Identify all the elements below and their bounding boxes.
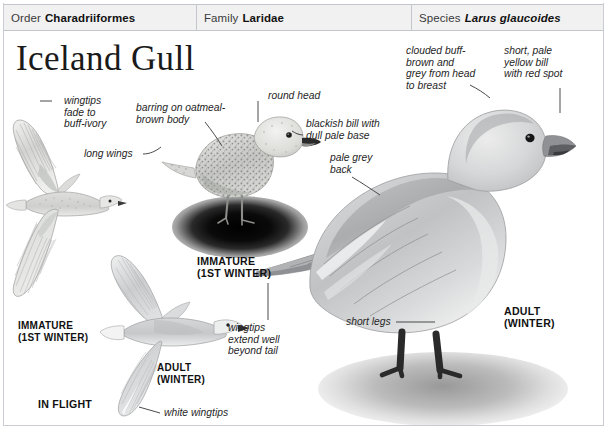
order-value: Charadriiformes [45, 12, 135, 24]
annotation-short-bill: short, pale yellow bill with red spot [504, 45, 594, 80]
annotation-wingtips-fade: wingtips fade to buff-ivory [64, 95, 144, 130]
annotation-blackish-bill: blackish bill with dull pale base [306, 118, 416, 141]
field-guide-plate: Order Charadriiformes Family Laridae Spe… [0, 0, 611, 430]
family-value: Laridae [242, 12, 284, 24]
species-value: Larus glaucoides [465, 12, 561, 24]
annotation-pale-grey-back: pale grey back [330, 152, 400, 175]
annotation-white-wingtips: white wingtips [164, 407, 254, 419]
taxonomy-cell-species: Species Larus glaucoides [412, 5, 603, 30]
annotation-clouded-head: clouded buff- brown and grey from head t… [406, 45, 498, 91]
caption-immature-perched: IMMATURE (1ST WINTER) [197, 255, 271, 279]
taxonomy-header: Order Charadriiformes Family Laridae Spe… [3, 4, 604, 31]
order-label: Order [11, 12, 41, 24]
caption-in-flight: IN FLIGHT [38, 398, 92, 410]
family-label: Family [204, 12, 238, 24]
annotation-round-head: round head [268, 90, 348, 102]
page-title: Iceland Gull [16, 41, 195, 76]
taxonomy-cell-family: Family Laridae [197, 5, 412, 30]
species-label: Species [419, 12, 461, 24]
caption-immature-flight: IMMATURE (1ST WINTER) [18, 320, 88, 344]
annotation-short-legs: short legs [346, 316, 416, 328]
annotation-wingtips-extend: wingtips extend well beyond tail [228, 322, 314, 357]
annotation-long-wings: long wings [84, 148, 154, 160]
caption-adult-standing: ADULT (WINTER) [504, 305, 555, 329]
taxonomy-cell-order: Order Charadriiformes [4, 5, 197, 30]
caption-adult-flight: ADULT (WINTER) [157, 362, 205, 386]
annotation-barring-body: barring on oatmeal- brown body [136, 102, 256, 125]
